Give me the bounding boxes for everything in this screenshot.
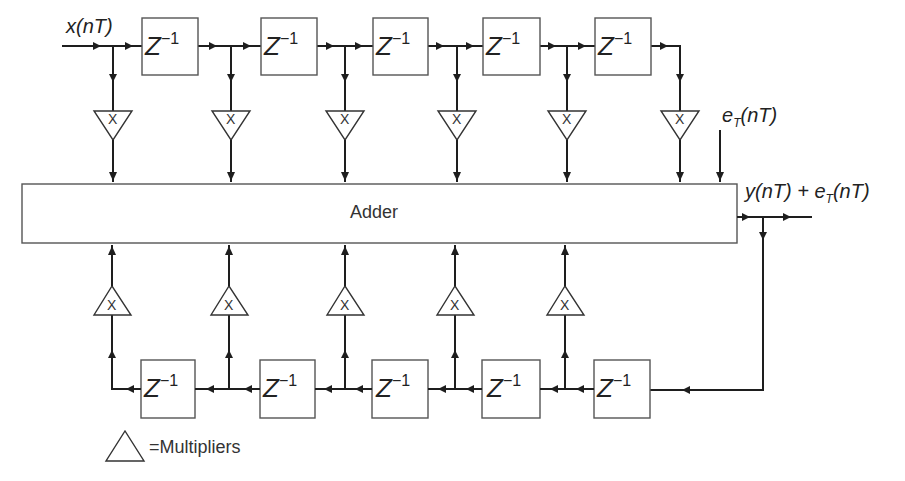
output-label: y(nT) + eT(nT) (745, 180, 870, 206)
multiplier-mark: X (560, 297, 569, 313)
multiplier-mark: X (340, 297, 349, 313)
legend-text: =Multipliers (149, 437, 241, 458)
multiplier-mark: X (562, 111, 571, 127)
multiplier-mark: X (224, 297, 233, 313)
legend-multiplier-icon (106, 431, 144, 461)
filter-block-diagram (0, 0, 905, 481)
delay-label: Z−1 (598, 30, 632, 62)
multiplier-mark: X (340, 111, 349, 127)
multiplier-mark: X (450, 297, 459, 313)
delay-label: Z−1 (376, 372, 410, 404)
multiplier-mark: X (226, 111, 235, 127)
delay-label: Z−1 (263, 372, 297, 404)
error-label: eT(nT) (722, 104, 777, 130)
multiplier-mark: X (675, 111, 684, 127)
delay-label: Z−1 (486, 30, 520, 62)
multiplier-mark: X (107, 297, 116, 313)
delay-label: Z−1 (487, 372, 521, 404)
delay-label: Z−1 (144, 372, 178, 404)
delay-label: Z−1 (376, 30, 410, 62)
input-label: x(nT) (66, 15, 113, 38)
adder-label: Adder (350, 202, 398, 223)
multiplier-mark: X (452, 111, 461, 127)
delay-label: Z−1 (264, 30, 298, 62)
multiplier-mark: X (108, 111, 117, 127)
delay-label: Z−1 (145, 30, 179, 62)
delay-label: Z−1 (597, 372, 631, 404)
